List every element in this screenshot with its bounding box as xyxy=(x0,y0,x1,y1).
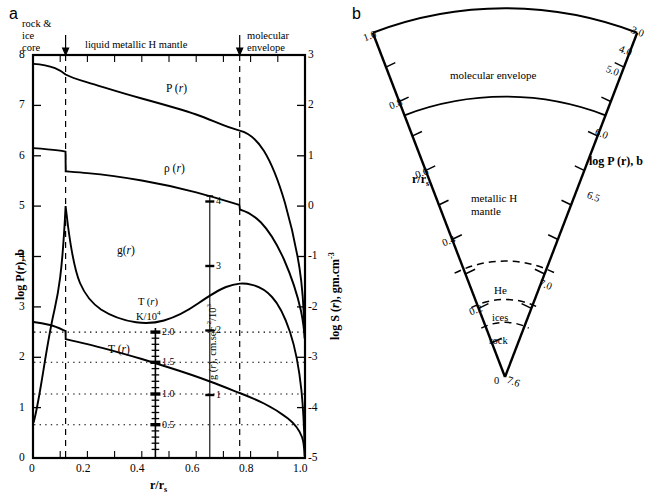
x-tick-02: 0.2 xyxy=(76,463,90,475)
right-tick-1: 1 xyxy=(308,150,314,162)
left-tick-5: 5 xyxy=(19,200,25,212)
wedge-left-axis-title-sub: s xyxy=(426,179,429,188)
inner-T-title-main: T ( xyxy=(138,296,150,307)
curve-label-pressure-text: P ( xyxy=(166,82,179,94)
right-tick-3: 3 xyxy=(308,49,314,61)
inner-g-title-main: g ( xyxy=(207,369,218,380)
left-axis-title: log P(r), b xyxy=(14,249,26,300)
left-tick-6: 6 xyxy=(19,150,25,162)
curve-label-density: ρ (r) xyxy=(164,163,185,175)
left-axis-title-main: log P( xyxy=(13,270,27,300)
figure-root: a rock & ice core liquid metallic H mant… xyxy=(0,0,661,497)
region-label-molecular-envelope-line2: envelope xyxy=(247,43,285,54)
wedge-label-molecular-envelope: molecular envelope xyxy=(450,70,536,81)
curve-label-temperature: T (r) xyxy=(108,344,130,356)
wedge-right-ticks xyxy=(522,63,624,309)
x-axis-title-sub: s xyxy=(164,485,167,494)
wedge-outer-arc xyxy=(373,8,637,32)
inner-T-tick-10: 1.0 xyxy=(162,389,175,399)
right-tick-neg4: -4 xyxy=(308,402,318,414)
inner-T-tick-20: 2.0 xyxy=(162,327,175,337)
inner-scale-temperature xyxy=(150,328,160,458)
wedge-label-metallic-h-mantle-line2: mantle xyxy=(471,206,501,217)
region-label-rock-ice-core-line2: ice xyxy=(22,31,34,42)
right-tick-neg3: -3 xyxy=(308,351,318,363)
inner-scale-temperature-title-line2: K/104 xyxy=(136,310,161,322)
inner-T-tick-05: 0.5 xyxy=(162,420,175,430)
inner-T-units: K/10 xyxy=(136,311,157,322)
curve-label-density-text: ρ ( xyxy=(164,162,176,174)
figure-canvas xyxy=(0,0,661,497)
right-axis-title-ital: r xyxy=(328,303,342,308)
right-axis-title-sup: -3 xyxy=(327,252,336,259)
inner-g-tick-2: 2 xyxy=(216,325,221,335)
x-tick-06: 0.6 xyxy=(185,463,199,475)
region-label-liquid-metallic-h-mantle: liquid metallic H mantle xyxy=(85,40,187,51)
inner-g-title-tail: /10 xyxy=(207,308,218,321)
inner-g-tick-1: 1 xyxy=(216,390,221,400)
x-tick-04: 0.4 xyxy=(130,463,144,475)
inner-g-title-ital: r xyxy=(207,365,218,369)
inner-g-title-sup2: 3 xyxy=(205,304,213,308)
wedge-left-axis-title-main: r/r xyxy=(412,172,426,186)
left-tick-7: 7 xyxy=(19,99,25,111)
curve-label-gravity-text: g( xyxy=(117,244,127,256)
inner-g-tick-4: 4 xyxy=(216,196,221,206)
left-tick-2: 2 xyxy=(19,351,25,363)
inner-T-tick-15: 1.5 xyxy=(162,357,175,367)
left-tick-1: 1 xyxy=(19,402,25,414)
curve-label-pressure: P (r) xyxy=(166,83,187,95)
curve-label-density-end: ) xyxy=(181,162,185,174)
right-axis-title: log S (r), gm.cm-3 xyxy=(328,252,341,340)
wedge-boundary-metallic xyxy=(405,97,606,116)
curve-label-pressure-end: ) xyxy=(183,82,187,94)
panel-a-letter: a xyxy=(9,6,18,22)
curve-label-gravity: g(r) xyxy=(117,245,135,257)
wedge-right-axis-title: log P (r), b xyxy=(589,155,643,167)
x-tick-08: 0.8 xyxy=(239,463,253,475)
right-tick-neg5: -5 xyxy=(308,452,318,464)
curve-label-temperature-text: T ( xyxy=(108,343,122,355)
region-label-molecular-envelope-line1: molecular xyxy=(247,31,289,42)
wedge-left-axis-title: r/rs xyxy=(412,173,429,189)
left-tick-0: 0 xyxy=(19,452,25,464)
left-axis-title-ital: r xyxy=(13,266,27,271)
inner-g-title-sup: -2 xyxy=(205,321,213,327)
inner-T-units-exp: 4 xyxy=(157,309,161,317)
region-label-rock-ice-core-line1: rock & xyxy=(22,19,51,30)
left-tick-3: 3 xyxy=(19,301,25,313)
curve-density xyxy=(34,148,305,338)
wedge-label-helium: He xyxy=(494,285,507,296)
x-axis-title-main: r/r xyxy=(150,478,164,492)
right-axis-title-end: ), gm.cm xyxy=(328,259,342,303)
right-tick-neg1: -1 xyxy=(308,250,318,262)
wedge-right-edge xyxy=(505,33,637,377)
curve-label-temperature-end: ) xyxy=(126,343,130,355)
right-tick-neg2: -2 xyxy=(308,301,318,313)
left-axis-title-end: ), b xyxy=(13,249,27,266)
right-axis-title-main: log S ( xyxy=(328,308,342,340)
panel-b-letter: b xyxy=(352,6,361,22)
inner-g-tick-3: 3 xyxy=(216,261,221,271)
wedge-label-metallic-h-mantle-line1: metallic H xyxy=(471,193,517,204)
wedge-label-ices: ices xyxy=(492,313,508,324)
wedge-left-tick-0: 0 xyxy=(494,376,499,387)
right-tick-0: 0 xyxy=(308,200,314,212)
inner-scale-temperature-title-line1: T (r) xyxy=(138,297,158,308)
x-axis-title: r/rs xyxy=(150,479,167,495)
x-tick-10: 1.0 xyxy=(293,463,307,475)
x-tick-0: 0 xyxy=(29,463,35,475)
dotted-reference-lines xyxy=(34,332,304,425)
inner-T-title-end: ) xyxy=(154,296,158,307)
curve-label-gravity-end: ) xyxy=(131,244,135,256)
right-tick-2: 2 xyxy=(308,99,314,111)
left-tick-8: 8 xyxy=(19,49,25,61)
wedge-label-rock: rock xyxy=(489,336,508,347)
inner-scale-gravity-title: g (r), cm.sec-2/103 xyxy=(206,304,218,380)
